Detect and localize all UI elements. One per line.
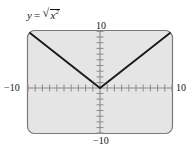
axis-label-top: 10 xyxy=(96,21,106,31)
axis-label-right: 10 xyxy=(176,83,186,93)
axis-label-left: −10 xyxy=(4,83,20,93)
graph-figure: y=√x2 xyxy=(0,0,194,153)
axis-label-bottom: −10 xyxy=(93,136,109,146)
